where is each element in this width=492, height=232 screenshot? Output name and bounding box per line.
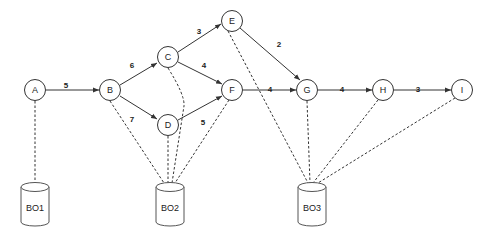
database-bo2[interactable]: BO2: [156, 183, 184, 227]
svg-text:B: B: [107, 85, 113, 95]
svg-text:E: E: [229, 16, 235, 26]
svg-text:G: G: [303, 85, 310, 95]
weight-e-g: 2: [277, 40, 282, 49]
edge-c-f: [178, 62, 222, 84]
svg-text:I: I: [461, 85, 464, 95]
database-bo3[interactable]: BO3: [298, 183, 326, 227]
node-c[interactable]: C: [158, 47, 179, 68]
weight-b-c: 6: [130, 61, 135, 70]
network-diagram: 5 6 7 3 4 5 2 4 4 3 A B C D E F G H I BO…: [0, 0, 492, 232]
edge-e-g: [240, 28, 300, 80]
svg-text:H: H: [380, 85, 387, 95]
weight-c-e: 3: [197, 27, 202, 36]
database-bo1[interactable]: BO1: [21, 183, 49, 227]
node-i[interactable]: I: [452, 80, 473, 101]
edges: [46, 24, 451, 120]
edge-d-f: [178, 96, 222, 120]
node-f[interactable]: F: [222, 80, 243, 101]
node-e[interactable]: E: [222, 11, 243, 32]
node-d[interactable]: D: [158, 115, 179, 136]
svg-text:BO3: BO3: [303, 203, 321, 213]
node-h[interactable]: H: [373, 80, 394, 101]
weight-g-h: 4: [340, 85, 345, 94]
weight-c-f: 4: [202, 61, 207, 70]
svg-text:BO1: BO1: [26, 203, 44, 213]
svg-text:F: F: [229, 85, 235, 95]
weight-d-f: 5: [201, 118, 206, 127]
node-a[interactable]: A: [25, 80, 46, 101]
edge-b-d: [120, 96, 157, 119]
dashed-links: [35, 31, 455, 183]
weight-b-d: 7: [130, 115, 135, 124]
svg-text:BO2: BO2: [161, 203, 179, 213]
node-g[interactable]: G: [297, 80, 318, 101]
svg-text:C: C: [165, 52, 172, 62]
edge-b-c: [120, 63, 157, 85]
edge-weights: 5 6 7 3 4 5 2 4 4 3: [64, 27, 421, 127]
weight-f-g: 4: [268, 85, 273, 94]
node-b[interactable]: B: [100, 80, 121, 101]
svg-text:A: A: [32, 85, 38, 95]
weight-h-i: 3: [416, 85, 421, 94]
svg-text:D: D: [165, 120, 172, 130]
weight-a-b: 5: [64, 81, 69, 90]
